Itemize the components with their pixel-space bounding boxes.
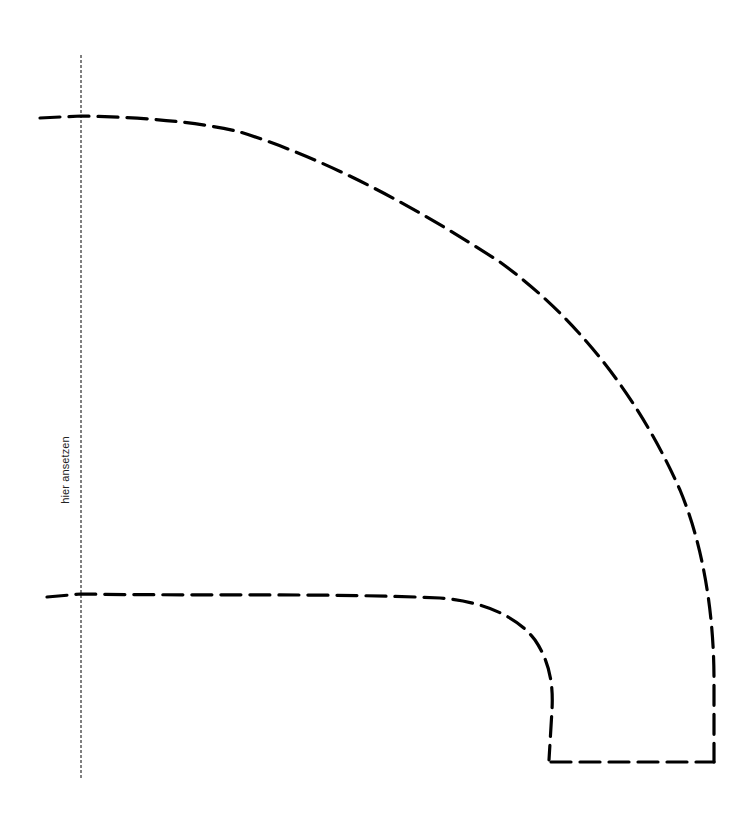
inner-cut-line (47, 594, 552, 760)
fold-line-label: hier ansetzen (59, 434, 71, 505)
outer-cut-line (40, 116, 714, 762)
pattern-canvas (0, 0, 754, 822)
